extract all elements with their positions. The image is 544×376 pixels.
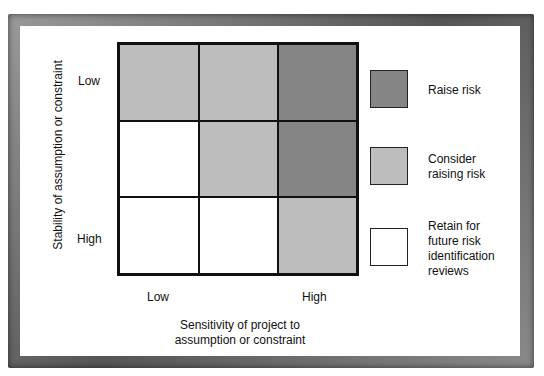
grid-line-v0: [117, 42, 120, 276]
x-tick-high: High: [302, 290, 327, 305]
cell-r2-c2: [199, 121, 278, 197]
y-axis-title: Stability of assumption or constraint: [51, 60, 65, 249]
cell-r1-c1: [118, 43, 199, 121]
cell-r1-c2: [199, 43, 278, 121]
y-tick-high: High: [77, 232, 102, 247]
cell-r1-c3: [278, 43, 357, 121]
legend-swatch-raise: [370, 70, 408, 108]
grid-line-h0: [117, 42, 359, 45]
grid-line-v3: [356, 42, 359, 276]
x-axis-title: Sensitivity of project to assumption or …: [160, 318, 320, 348]
legend-label-raise: Raise risk: [428, 83, 481, 98]
cell-r3-c3: [278, 197, 357, 274]
grid-line-h1: [117, 120, 359, 122]
grid-line-h2: [117, 196, 359, 198]
grid-line-v1: [198, 42, 200, 276]
cell-r3-c2: [199, 197, 278, 274]
legend-swatch-retain: [370, 228, 408, 266]
y-tick-low: Low: [78, 74, 100, 89]
cell-r2-c3: [278, 121, 357, 197]
legend-label-retain: Retain for future risk identification re…: [428, 219, 495, 279]
legend-swatch-consider: [370, 147, 408, 185]
grid-line-v2: [277, 42, 279, 276]
x-tick-low: Low: [147, 290, 169, 305]
cell-r3-c1: [118, 197, 199, 274]
legend-label-consider: Consider raising risk: [428, 152, 485, 182]
grid-line-h3: [117, 273, 359, 276]
cell-r2-c1: [118, 121, 199, 197]
